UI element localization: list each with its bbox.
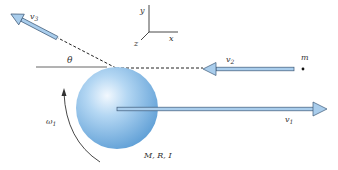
angular-arrowhead-icon: [62, 88, 67, 96]
v2-arrow: [203, 63, 294, 76]
v2-label: v2: [226, 55, 235, 65]
particle-mass-label: m: [301, 53, 309, 62]
particle-dot: [302, 68, 305, 71]
sphere-properties-label: M, R, I: [143, 151, 172, 160]
collision-diagram: y x z θ v3 v2 m v1 ω1 M, R, I: [0, 0, 338, 170]
omega-label: ω1: [46, 117, 56, 127]
angle-theta-label: θ: [67, 55, 73, 65]
v1-label: v1: [285, 115, 293, 125]
axis-y-label: y: [139, 6, 145, 15]
axis-x-label: x: [169, 34, 174, 43]
axis-z-label: z: [133, 39, 139, 48]
v3-label: v3: [30, 12, 39, 22]
